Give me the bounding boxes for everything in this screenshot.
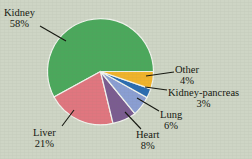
- pie-label-other-percent: 4%: [175, 76, 199, 87]
- pie-label-liver-percent: 21%: [33, 139, 56, 150]
- pie-label-heart: Heart 8%: [136, 130, 159, 151]
- pie-chart: Kidney 58% Liver 21% Heart 8% Lung 6% Ki…: [0, 0, 252, 159]
- pie-label-kidney-pancreas: Kidney-pancreas 3%: [168, 88, 239, 109]
- pie-label-lung: Lung 6%: [160, 110, 182, 131]
- pie-label-kidney-percent: 58%: [4, 19, 35, 30]
- pie-label-lung-percent: 6%: [160, 121, 182, 132]
- pie-label-other: Other 4%: [175, 65, 199, 86]
- leader-line-kidney: [40, 26, 66, 41]
- pie-label-kidney: Kidney 58%: [4, 8, 35, 29]
- pie-label-heart-percent: 8%: [136, 141, 159, 152]
- pie-label-liver: Liver 21%: [33, 128, 56, 149]
- pie-label-kidney-pancreas-percent: 3%: [168, 99, 239, 110]
